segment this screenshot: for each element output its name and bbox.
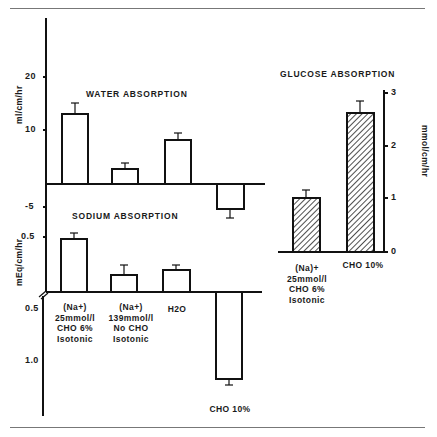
glucose-tick-3: 3 bbox=[391, 87, 396, 97]
sodium-y-axis-label: mEq/cm/hr bbox=[14, 238, 24, 286]
sodium-bar-4 bbox=[216, 292, 242, 379]
water-bar-2 bbox=[112, 169, 138, 184]
glucose-tick-1: 1 bbox=[391, 192, 396, 202]
sodium-tick-neg-1-0: 1.0 bbox=[25, 355, 39, 365]
category-label-4: CHO 10% bbox=[200, 404, 260, 415]
sodium-bar-3 bbox=[163, 270, 190, 292]
sodium-absorption-title: SODIUM ABSORPTION bbox=[72, 211, 178, 221]
water-tick-minus5: -5 bbox=[25, 201, 34, 211]
water-bar-3 bbox=[165, 140, 191, 184]
glucose-bar-1 bbox=[293, 198, 320, 252]
water-bar-1 bbox=[62, 114, 88, 184]
chart-canvas bbox=[0, 0, 437, 437]
sodium-tick-neg-0-5: 0.5 bbox=[25, 303, 39, 313]
water-bar-4 bbox=[217, 184, 244, 209]
sodium-bar-2 bbox=[111, 275, 137, 292]
water-absorption-title: WATER ABSORPTION bbox=[86, 89, 188, 99]
category-label-3: H2O bbox=[160, 304, 194, 315]
glucose-tick-0: 0 bbox=[391, 246, 396, 256]
glucose-absorption-title: GLUCOSE ABSORPTION bbox=[280, 69, 395, 79]
glucose-bar-2 bbox=[347, 113, 374, 252]
sodium-tick-0-5: 0.5 bbox=[21, 231, 35, 241]
glucose-tick-2: 2 bbox=[391, 140, 396, 150]
category-label-1: (Na+) 25mmol/l CHO 6% Isotonic bbox=[46, 302, 104, 344]
glucose-y-axis-label: mmol/cm/hr bbox=[420, 125, 430, 177]
water-tick-20: 20 bbox=[25, 71, 36, 81]
glucose-category-label-2: CHO 10% bbox=[333, 260, 393, 271]
sodium-bar-1 bbox=[61, 239, 87, 292]
glucose-category-label-1: (Na)+ 25mmol/l CHO 6% Isotonic bbox=[278, 263, 336, 305]
category-label-2: (Na+) 139mmol/l No CHO Isotonic bbox=[102, 302, 160, 344]
water-tick-10: 10 bbox=[25, 124, 36, 134]
water-y-axis-label: ml/cm/hr bbox=[14, 85, 24, 124]
